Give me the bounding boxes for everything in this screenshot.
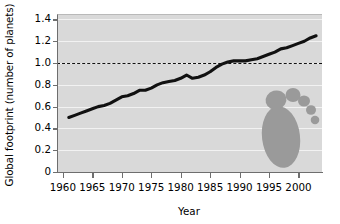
y-tick-mark [53, 150, 57, 151]
x-tick-mark [181, 173, 182, 178]
x-axis-line [57, 172, 323, 173]
x-tick-mark [151, 173, 152, 178]
x-tick-mark [298, 173, 299, 178]
y-tick-label: 0.8 [11, 79, 51, 89]
y-tick-mark [53, 172, 57, 173]
y-tick-mark [53, 85, 57, 86]
y-tick-label: 1.2 [11, 35, 51, 45]
y-tick-label: 0 [11, 166, 51, 176]
y-tick-label: 0.6 [11, 101, 51, 111]
footprint-icon [255, 69, 321, 172]
x-axis-title: Year [56, 205, 322, 217]
x-tick-label: 2000 [278, 181, 318, 193]
y-tick-label: 0.4 [11, 122, 51, 132]
y-tick-label: 0.2 [11, 144, 51, 154]
y-tick-mark [53, 19, 57, 20]
y-tick-mark [53, 41, 57, 42]
x-tick-mark [240, 173, 241, 178]
y-tick-label: 1.4 [11, 13, 51, 23]
y-axis-title: Global footprint (number of planets) [2, 0, 16, 190]
y-tick-mark [53, 128, 57, 129]
y-tick-label: 1.0 [11, 57, 51, 67]
footprint-line-chart: Global footprint (number of planets) 00.… [0, 0, 340, 224]
y-tick-mark [53, 107, 57, 108]
y-tick-mark [53, 63, 57, 64]
x-tick-mark [122, 173, 123, 178]
x-tick-mark [210, 173, 211, 178]
x-tick-mark [92, 173, 93, 178]
x-tick-mark [63, 173, 64, 178]
plot-area [57, 14, 322, 172]
x-tick-mark [269, 173, 270, 178]
